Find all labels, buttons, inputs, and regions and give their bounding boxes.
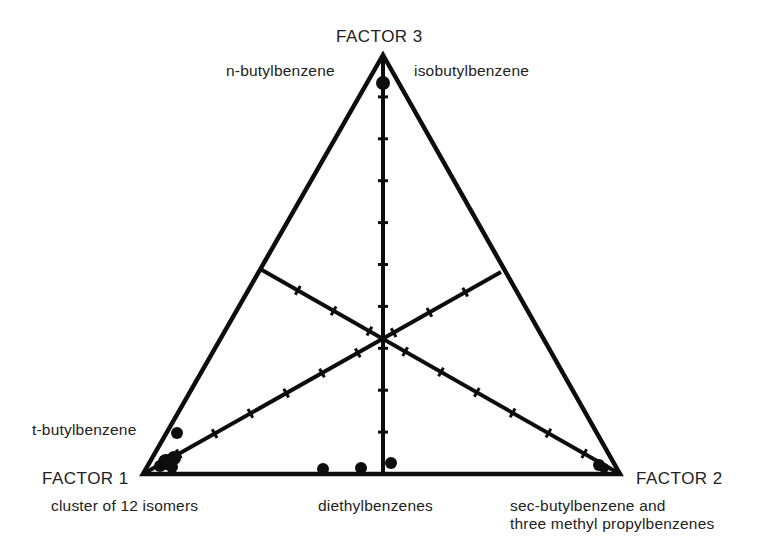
factor-3-label: FACTOR 3 — [336, 28, 423, 46]
data-point — [171, 427, 183, 439]
data-point — [317, 463, 329, 475]
cluster-label: cluster of 12 isomers — [51, 497, 198, 515]
factor-2-label: FACTOR 2 — [636, 470, 723, 488]
t-butylbenzene-label: t-butylbenzene — [32, 421, 136, 439]
methyl-propylbenzenes-label: three methyl propylbenzenes — [510, 515, 714, 533]
data-point — [355, 462, 367, 474]
n-butylbenzene-label: n-butylbenzene — [226, 62, 335, 80]
factor-1-label: FACTOR 1 — [42, 470, 129, 488]
data-point — [599, 463, 609, 473]
data-point — [166, 461, 178, 473]
data-point — [385, 457, 397, 469]
sec-butylbenzene-label: sec-butylbenzene and — [510, 497, 666, 515]
isobutylbenzene-label: isobutylbenzene — [414, 62, 529, 80]
data-point — [154, 460, 166, 472]
data-point — [376, 76, 390, 90]
diethylbenzenes-label: diethylbenzenes — [318, 497, 433, 515]
